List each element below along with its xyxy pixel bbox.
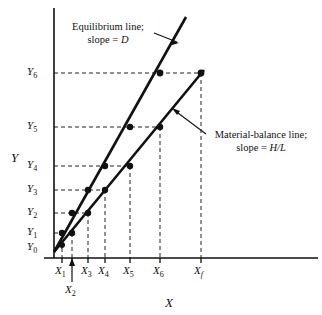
y-tick-label-y4: Y4: [27, 159, 37, 173]
material-balance-line: [54, 70, 204, 252]
point-mb-2: [85, 210, 91, 216]
y-tick-label-y2: Y2: [27, 206, 37, 220]
point-mb-1: [69, 230, 75, 236]
point-mb-5: [157, 124, 163, 130]
x2-pointer-arrow: [69, 258, 75, 282]
equilibrium-annotation-line1: Equilibrium line;: [62, 20, 154, 33]
point-eq-4: [102, 163, 108, 169]
x-axis-title: X: [165, 296, 173, 309]
x-tick-label-x4: X4: [98, 265, 109, 279]
point-mb-3: [102, 187, 108, 193]
point-mb-0: [59, 242, 65, 248]
point-eq-3: [85, 187, 91, 193]
y-tick-label-y5: Y5: [27, 120, 37, 134]
material-balance-annotation: Material-balance line; slope = H/L: [205, 128, 317, 154]
point-eq-1: [59, 230, 65, 236]
x-tick-label-x5: X5: [123, 265, 134, 279]
x-tick-label-x3: X3: [81, 265, 92, 279]
equilibrium-stage-diagram: Y X Y6 Y5 Y4 Y3 Y2 Y1 Y0 X1 X2 X3 X4 X5 …: [0, 0, 322, 315]
y-tick-label-y0: Y0: [27, 241, 37, 255]
x-tick-label-xf: Xf: [194, 265, 203, 279]
y-tick-label-y3: Y3: [27, 183, 37, 197]
material-balance-annotation-line1: Material-balance line;: [205, 128, 317, 141]
y-tick-label-y6: Y6: [27, 66, 37, 80]
equilibrium-annotation-line2: slope = D: [62, 33, 154, 46]
x-tick-label-x6: X6: [153, 265, 164, 279]
point-mb-6: [198, 70, 205, 77]
material-balance-annotation-line2: slope = H/L: [205, 141, 317, 154]
equilibrium-line: [54, 17, 186, 252]
point-eq-5: [127, 124, 133, 130]
y-axis-title: Y: [11, 151, 18, 164]
y-tick-label-y1: Y1: [27, 226, 37, 240]
point-eq-6: [157, 70, 164, 77]
equilibrium-annotation: Equilibrium line; slope = D: [62, 20, 154, 46]
point-eq-2: [69, 210, 75, 216]
point-mb-4: [127, 163, 133, 169]
x-tick-label-x1: X1: [55, 265, 66, 279]
x-tick-label-x2: X2: [65, 284, 76, 298]
